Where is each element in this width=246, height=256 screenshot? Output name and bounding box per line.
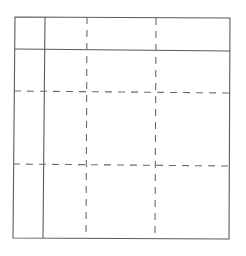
first-column-divider — [43, 17, 45, 238]
dashed-horizontal-1 — [14, 91, 230, 93]
dashed-vertical-2 — [155, 18, 156, 239]
header-row-divider — [15, 49, 230, 51]
grid-diagram — [0, 0, 246, 256]
solid-lines — [15, 17, 230, 238]
dashed-horizontal-2 — [13, 164, 229, 166]
